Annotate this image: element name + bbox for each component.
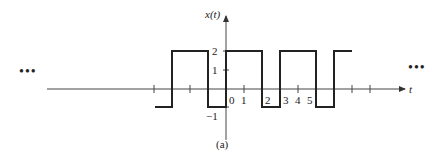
figure-caption: (a) bbox=[216, 138, 229, 151]
x-tick-label-4: 4 bbox=[295, 94, 301, 106]
x-tick-label-3: 3 bbox=[283, 94, 289, 106]
x-tick-label-1: 1 bbox=[241, 94, 247, 106]
ellipsis-right: ••• bbox=[408, 60, 426, 75]
y-tick-label-neg1: −1 bbox=[206, 110, 218, 122]
y-tick-label-2: 2 bbox=[212, 45, 218, 57]
x-axis-label: t bbox=[409, 83, 413, 95]
x-tick-label-0: 0 bbox=[229, 94, 235, 106]
x-tick-label-5: 5 bbox=[307, 94, 313, 106]
x-tick-label-2: 2 bbox=[265, 94, 271, 106]
y-axis-label: x(t) bbox=[204, 8, 221, 21]
signal-diagram: 2 1 −1 0 1 2 3 4 5 x(t) t ••• ••• (a) bbox=[0, 0, 448, 163]
pulse-waveform bbox=[155, 51, 352, 107]
y-tick-label-1: 1 bbox=[212, 64, 218, 76]
ellipsis-left: ••• bbox=[19, 64, 37, 79]
